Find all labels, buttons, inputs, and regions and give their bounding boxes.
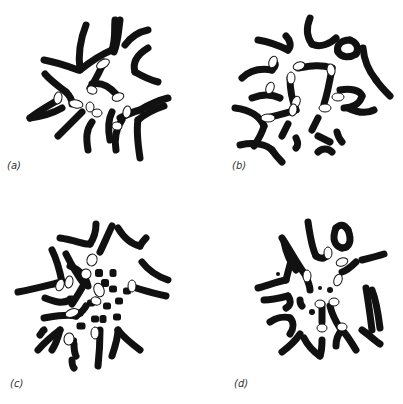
chromosome — [118, 330, 140, 350]
chromosome — [60, 238, 90, 244]
chromosome — [320, 340, 322, 356]
chromosome — [118, 228, 140, 246]
small-chromosome — [95, 269, 103, 277]
chromosome — [90, 224, 96, 244]
chromosome — [136, 288, 166, 296]
chromosome — [252, 95, 280, 98]
pale-segment — [261, 114, 275, 122]
pale-segment — [329, 298, 339, 306]
chromosome-dot — [318, 286, 322, 290]
chromosome — [342, 330, 356, 350]
chromosome — [348, 108, 374, 112]
chromosome — [40, 330, 44, 335]
pale-segment — [303, 270, 311, 282]
chromosome — [109, 112, 112, 140]
chromosome-dot — [309, 309, 315, 315]
chromosome — [312, 38, 336, 46]
chromosome — [300, 300, 302, 306]
chromosome — [125, 30, 148, 45]
chromosome — [100, 226, 112, 252]
pale-segment — [92, 109, 102, 117]
pale-segment — [319, 104, 331, 112]
small-chromosome — [81, 279, 89, 287]
chromosome — [350, 40, 358, 54]
chromosome — [286, 36, 290, 50]
chromosome — [258, 40, 288, 50]
chromosome — [72, 360, 74, 368]
chromosome — [272, 150, 282, 162]
pale-segment — [315, 300, 325, 308]
pale-segment — [332, 93, 344, 101]
chromosome — [142, 262, 168, 280]
chromosome — [318, 136, 330, 142]
chromosome — [282, 124, 288, 136]
chromosome-drawing — [0, 0, 403, 404]
chromosome — [235, 108, 264, 126]
chromosome — [363, 48, 376, 80]
chromosome — [264, 296, 288, 300]
pale-segment — [337, 323, 347, 331]
panel-label-d: (d) — [234, 378, 248, 389]
chromosome-figure: (a) (b) (c) (d) — [0, 0, 403, 404]
chromosome — [52, 250, 62, 282]
panel-label-c: (c) — [10, 378, 23, 389]
panel-label-b: (b) — [232, 160, 246, 171]
chromosome — [290, 318, 293, 334]
chromosome — [318, 149, 332, 152]
chromosome — [376, 80, 390, 96]
small-chromosome — [77, 323, 86, 330]
chromosome — [140, 238, 146, 246]
chromosome — [58, 112, 82, 136]
chromosome — [312, 118, 318, 130]
small-chromosome — [115, 298, 123, 305]
panel-d — [258, 222, 384, 356]
small-chromosome — [103, 303, 111, 310]
chromosome — [258, 280, 286, 288]
chromosome — [87, 122, 92, 150]
pale-segment — [68, 99, 83, 109]
pale-segment — [85, 253, 99, 268]
panel-a — [30, 20, 168, 158]
pale-segment — [317, 324, 327, 332]
panel-b — [235, 18, 390, 162]
chromosome — [44, 60, 78, 70]
chromosome — [307, 18, 312, 44]
chromosome — [336, 225, 348, 230]
small-chromosome — [91, 316, 99, 323]
chromosome — [240, 144, 272, 150]
pale-segment — [288, 103, 298, 116]
small-chromosome — [109, 286, 117, 293]
small-chromosome — [67, 296, 75, 303]
chromosome — [296, 138, 298, 148]
chromosome — [242, 69, 272, 78]
pale-segment — [287, 72, 295, 84]
chromosome-dot — [276, 272, 280, 276]
chromosome — [134, 48, 148, 72]
chromosome-dot — [327, 287, 333, 293]
chromosome — [74, 344, 76, 356]
panel-c — [18, 224, 168, 368]
chromosome — [135, 72, 158, 82]
pale-segment — [324, 247, 332, 259]
small-chromosome — [100, 315, 107, 323]
chromosome — [308, 222, 316, 256]
chromosome — [45, 298, 70, 302]
pale-segment — [91, 327, 99, 339]
small-chromosome — [110, 269, 117, 277]
chromosome — [45, 74, 66, 92]
small-chromosome — [113, 314, 121, 321]
chromosome — [362, 254, 384, 260]
pale-segment — [53, 91, 63, 104]
chromosome — [137, 120, 140, 158]
pale-segment — [128, 280, 136, 292]
chromosome — [286, 296, 290, 308]
chromosome — [337, 132, 342, 142]
panel-label-a: (a) — [7, 160, 21, 171]
pale-segment — [64, 275, 74, 288]
